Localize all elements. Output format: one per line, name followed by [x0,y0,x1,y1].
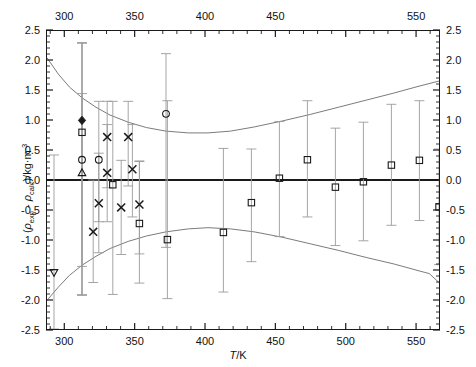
y-tick-label-right--2.5: -2.5 [446,324,465,336]
x-axis-label: T/K [0,349,476,361]
y-tick-label-left-1.5: 1.5 [6,84,40,96]
error-bar [49,155,59,329]
x-tick-label-bottom-400: 400 [196,335,214,347]
y-tick-label-right-0.0: 0.0 [446,174,461,186]
y-axis-label: (ρexp - ρcalc)/kg·m-3 [20,108,37,268]
x-tick-label-bottom-550: 550 [407,335,425,347]
y-tick-label-right--0.5: -0.5 [446,204,465,216]
y-tick-label-right-2.5: 2.5 [446,24,461,36]
data-point-open-square [436,204,439,210]
y-label-sub-calc: calc [27,182,36,195]
error-bar [218,148,228,292]
y-tick-label-left--2.0: -2.0 [6,294,40,306]
y-tick-label-left-2.5: 2.5 [6,24,40,36]
y-label-minus: - [21,201,33,211]
error-bar [108,101,118,294]
y-label-rho-calc: ρ [21,195,33,201]
y-label-rho-exp: ρ [21,223,33,229]
y-label-close: )/kg·m [21,150,33,181]
x-tick-label-top-400: 400 [196,10,214,22]
y-tick-label-left-2.0: 2.0 [6,54,40,66]
error-bar [123,101,133,186]
x-tick-label-top-300: 300 [55,10,73,22]
y-label-exponent: -3 [20,144,29,151]
x-tick-label-top-350: 350 [125,10,143,22]
y-tick-label-right-1.0: 1.0 [446,114,461,126]
y-tick-label-right-2.0: 2.0 [446,54,461,66]
y-tick-label-right--1.5: -1.5 [446,264,465,276]
density-deviation-figure: 300350400450550 300350400450500550 -2.5-… [0,0,476,367]
y-tick-label-right-0.5: 0.5 [446,144,461,156]
y-label-sub-exp: exp [27,211,36,223]
plot-area [46,30,440,330]
uncertainty-envelope-upper [47,58,439,133]
y-label-open: ( [21,229,33,233]
x-tick-label-top-550: 550 [407,10,425,22]
y-tick-label-right-1.5: 1.5 [446,84,461,96]
uncertainty-envelope-lower [47,228,439,301]
x-axis-units: /K [236,349,246,361]
plot-canvas [47,31,439,329]
y-tick-label-right--2.0: -2.0 [446,294,465,306]
x-tick-label-bottom-300: 300 [55,335,73,347]
x-tick-label-bottom-350: 350 [125,335,143,347]
x-tick-label-bottom-450: 450 [266,335,284,347]
x-tick-label-bottom-500: 500 [337,335,355,347]
data-point-filled-diamond [78,116,85,124]
error-bar [161,54,171,248]
y-tick-label-left--2.5: -2.5 [6,324,40,336]
x-tick-label-top-450: 450 [266,10,284,22]
error-bar [434,149,439,265]
y-tick-label-right--1.0: -1.0 [446,234,465,246]
